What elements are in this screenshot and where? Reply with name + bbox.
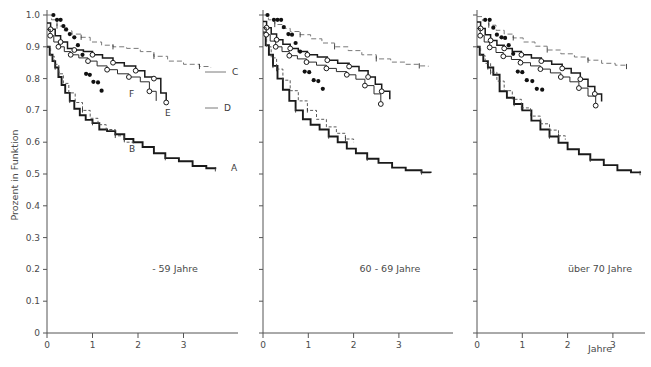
curve-C-panel1 [47,15,211,68]
marker-censor-E-1-11 [126,75,131,80]
marker-censor-E-3-13 [577,86,582,91]
marker-filled-F-3-6 [507,43,511,47]
marker-filled-F-2-8 [298,50,302,54]
marker-filled-F-3-4 [499,35,503,39]
marker-censor-D-3-9 [539,59,544,64]
marker-censor-D-1-13 [152,76,157,81]
x-tick-label-1-3: 3 [181,340,187,350]
marker-censor-E-2-9 [324,66,329,71]
y-tick-label-1: 0.1 [26,296,40,306]
x-tick-label-2-3: 3 [396,340,402,350]
marker-filled-F-3-11 [530,79,534,83]
y-axis-title: Prozent in Funktion [9,129,20,220]
marker-censor-E-3-11 [558,75,563,80]
marker-filled-F-2-4 [282,25,286,29]
curve-C-panel2 [263,15,428,67]
y-tick-label-10: 1.0 [26,10,41,20]
curve-A-panel3 [477,47,640,173]
marker-filled-F-1-4 [64,27,68,31]
marker-filled-F-2-9 [303,70,307,74]
marker-censor-D-2-15 [379,89,384,94]
marker-censor-D-2-5 [288,46,293,51]
x-axis-title: Jahre [587,343,612,354]
marker-censor-D-1-7 [90,52,95,57]
marker-filled-F-3-13 [540,88,544,92]
marker-censor-E-3-1 [478,33,483,38]
marker-censor-E-2-3 [273,44,278,49]
marker-censor-D-3-5 [502,46,507,51]
marker-filled-F-3-7 [511,52,515,56]
survival-curves-svg: 00.10.20.30.40.50.60.70.80.91.00123- 59 … [0,0,651,367]
curve-end-label-B: B [129,144,135,154]
curve-end-label-E: E [165,108,171,118]
marker-censor-E-2-15 [378,102,383,107]
marker-censor-D-1-5 [72,48,77,53]
marker-censor-E-2-7 [304,60,309,65]
marker-filled-F-3-9 [520,70,524,74]
marker-censor-D-1-9 [111,60,116,65]
panel-annotation-1: - 59 Jahre [152,263,198,274]
curve-end-label-C: C [232,67,238,77]
marker-filled-F-1-2 [59,18,63,22]
marker-filled-F-1-7 [76,43,80,47]
marker-filled-F-3-12 [535,87,539,91]
marker-censor-E-3-9 [538,67,543,72]
marker-censor-D-2-13 [366,75,371,80]
marker-filled-F-3-1 [488,18,492,22]
marker-filled-F-2-12 [316,79,320,83]
curve-end-label-F: F [129,89,134,99]
marker-filled-F-3-10 [525,78,529,82]
marker-filled-F-2-3 [279,18,283,22]
panel-annotation-2: 60 - 69 Jahre [360,263,421,274]
x-tick-label-3-2: 2 [565,340,571,350]
marker-filled-F-2-7 [294,41,298,45]
y-tick-label-2: 0.2 [26,264,40,274]
marker-filled-F-1-1 [55,18,59,22]
marker-filled-F-2-6 [290,33,294,37]
y-tick-label-9: 0.9 [26,42,41,52]
marker-censor-E-2-11 [344,72,349,77]
marker-censor-D-1-11 [133,68,138,73]
marker-filled-F-3-0 [483,18,487,22]
curve-end-label-D: D [224,103,231,113]
marker-censor-E-3-3 [487,45,492,50]
marker-censor-E-1-1 [48,33,53,38]
marker-censor-E-2-1 [264,32,269,37]
y-tick-label-3: 0.3 [26,233,40,243]
marker-filled-F-1-0 [51,13,55,17]
marker-filled-F-2-5 [286,32,290,36]
marker-filled-F-2-1 [272,18,276,22]
curve-C-panel3 [477,17,627,67]
marker-censor-E-1-3 [56,44,61,49]
x-tick-label-1-2: 2 [135,340,141,350]
marker-censor-E-1-7 [86,59,91,64]
chart-figure: 00.10.20.30.40.50.60.70.80.91.00123- 59 … [0,0,651,367]
marker-censor-D-2-7 [305,52,310,57]
y-tick-label-5: 0.5 [26,169,40,179]
marker-censor-D-3-15 [592,92,597,97]
marker-filled-F-2-11 [312,78,316,82]
axes-layer [43,10,645,338]
marker-censor-E-1-13 [147,89,152,94]
y-tick-label-7: 0.7 [26,105,40,115]
marker-censor-E-1-9 [105,67,110,72]
x-tick-label-2-2: 2 [351,340,357,350]
marker-filled-F-1-9 [84,72,88,76]
marker-filled-F-1-8 [80,53,84,57]
marker-filled-F-1-12 [96,80,100,84]
marker-filled-F-3-3 [495,33,499,37]
marker-censor-E-1-5 [68,52,73,57]
marker-filled-F-1-6 [72,35,76,39]
marker-censor-D-3-11 [560,66,565,71]
marker-filled-F-1-11 [91,80,95,84]
marker-censor-D-2-9 [325,58,330,63]
marker-filled-F-2-0 [265,13,269,17]
marker-censor-D-3-7 [519,52,524,57]
marker-censor-D-2-11 [347,64,352,69]
x-tick-label-3-1: 1 [519,340,525,350]
marker-censor-E-3-7 [518,60,523,65]
x-tick-label-2-0: 0 [260,340,266,350]
marker-filled-F-3-5 [503,36,507,40]
marker-censor-E-3-5 [501,54,506,59]
y-tick-label-4: 0.4 [26,201,41,211]
